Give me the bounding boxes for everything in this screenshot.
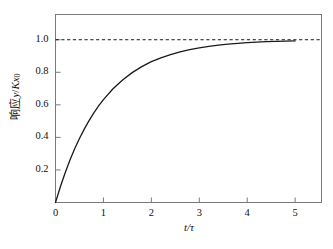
y-axis-label-slash: / <box>9 90 21 93</box>
x-axis-label: t/τ <box>55 221 323 233</box>
chart-figure: 响应y/Kx0 t/τ 0.20.40.60.81.0 012345 <box>0 0 333 249</box>
y-tick-label: 0.2 <box>19 163 49 174</box>
plot-frame <box>56 15 322 203</box>
y-axis-label-var-x: x <box>9 77 21 82</box>
x-tick-label: 2 <box>141 207 161 218</box>
y-axis-label-var-y: y <box>9 93 21 98</box>
x-tick-label: 0 <box>46 207 66 218</box>
x-tick-label: 5 <box>285 207 305 218</box>
x-axis-label-denominator: τ <box>190 221 194 233</box>
y-tick-label: 1.0 <box>19 33 49 44</box>
y-axis-label-var-k: K <box>9 82 21 89</box>
y-tick-label: 0.4 <box>19 130 49 141</box>
y-tick-label: 0.8 <box>19 65 49 76</box>
x-tick-label: 4 <box>237 207 257 218</box>
x-tick-label: 1 <box>93 207 113 218</box>
y-tick-label: 0.6 <box>19 98 49 109</box>
x-tick-label: 3 <box>189 207 209 218</box>
